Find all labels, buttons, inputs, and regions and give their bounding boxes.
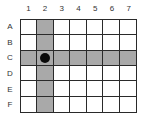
grid-cell-E3 [54, 81, 70, 96]
grid-cell-E7 [120, 81, 136, 96]
grid-cell-C3 [54, 51, 70, 66]
grid-cell-F7 [120, 97, 136, 112]
grid-cell-E5 [87, 81, 103, 96]
column-label: 1 [20, 4, 37, 14]
grid-cell-A6 [103, 20, 119, 35]
grid-cell-B7 [120, 35, 136, 50]
grid-cell-F3 [54, 97, 70, 112]
grid-cell-D5 [87, 66, 103, 81]
grid-cell-C1 [21, 51, 37, 66]
grid-cell-C5 [87, 51, 103, 66]
row-label: A [5, 19, 15, 35]
row-label: F [5, 97, 15, 113]
grid-cell-A5 [87, 20, 103, 35]
grid-cell-F4 [70, 97, 86, 112]
grid-cell-D1 [21, 66, 37, 81]
grid-cell-F5 [87, 97, 103, 112]
grid-cell-E1 [21, 81, 37, 96]
grid-cell-C2 [37, 51, 53, 66]
grid-cell-F2 [37, 97, 53, 112]
marker-dot-icon [40, 53, 50, 63]
grid-cell-B6 [103, 35, 119, 50]
column-label: 2 [37, 4, 54, 14]
column-label: 7 [120, 4, 137, 14]
grid-cell-B1 [21, 35, 37, 50]
grid-cell-E6 [103, 81, 119, 96]
grid-cell-D4 [70, 66, 86, 81]
grid-cell-B5 [87, 35, 103, 50]
grid-diagram: 1234567 ABCDEF [0, 0, 143, 121]
grid-cell-E4 [70, 81, 86, 96]
grid-cell-A7 [120, 20, 136, 35]
row-label: B [5, 35, 15, 51]
column-label: 4 [70, 4, 87, 14]
grid-cell-B4 [70, 35, 86, 50]
grid-cell-C4 [70, 51, 86, 66]
grid-cell-A3 [54, 20, 70, 35]
grid-cell-D2 [37, 66, 53, 81]
grid-cell-B2 [37, 35, 53, 50]
grid-cell-E2 [37, 81, 53, 96]
row-label: E [5, 82, 15, 98]
row-label: D [5, 66, 15, 82]
grid-cell-A4 [70, 20, 86, 35]
grid-cell-A2 [37, 20, 53, 35]
grid-cell-C6 [103, 51, 119, 66]
column-label: 6 [104, 4, 121, 14]
column-label: 5 [87, 4, 104, 14]
grid-cell-A1 [21, 20, 37, 35]
grid-cell-F6 [103, 97, 119, 112]
grid-cell-F1 [21, 97, 37, 112]
grid-cell-D7 [120, 66, 136, 81]
grid-cell-C7 [120, 51, 136, 66]
grid-cell-D6 [103, 66, 119, 81]
grid-cell-D3 [54, 66, 70, 81]
grid-cell-B3 [54, 35, 70, 50]
row-label: C [5, 50, 15, 66]
coordinate-grid [20, 19, 137, 113]
column-label: 3 [53, 4, 70, 14]
